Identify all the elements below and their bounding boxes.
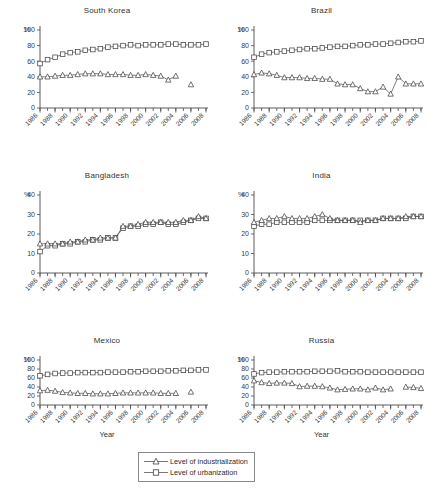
svg-text:2008: 2008 [404, 277, 420, 293]
svg-text:20: 20 [241, 392, 249, 399]
svg-text:1992: 1992 [69, 277, 85, 293]
svg-text:1996: 1996 [313, 112, 329, 128]
svg-text:2008: 2008 [189, 112, 205, 128]
svg-text:1992: 1992 [283, 409, 299, 425]
svg-text:2002: 2002 [359, 112, 375, 128]
svg-text:1990: 1990 [268, 277, 284, 293]
chart-svg: 0102030401986198819901992199419961998200… [0, 165, 214, 330]
panel-russia: Russia % 0204060801001986198819901992199… [214, 330, 429, 440]
svg-text:1992: 1992 [283, 112, 299, 128]
svg-text:40: 40 [27, 73, 35, 80]
svg-text:20: 20 [241, 230, 249, 237]
svg-text:80: 80 [241, 365, 249, 372]
svg-text:0: 0 [31, 401, 35, 408]
svg-text:2004: 2004 [374, 112, 390, 128]
plot-area: 0102030401986198819901992199419961998200… [0, 165, 214, 330]
svg-text:1994: 1994 [298, 112, 314, 128]
svg-text:100: 100 [23, 356, 35, 363]
svg-text:1994: 1994 [84, 277, 100, 293]
svg-text:1990: 1990 [54, 277, 70, 293]
svg-text:2000: 2000 [129, 409, 145, 425]
svg-text:1992: 1992 [283, 277, 299, 293]
svg-text:2004: 2004 [159, 112, 175, 128]
svg-text:2000: 2000 [129, 112, 145, 128]
svg-text:2006: 2006 [174, 277, 190, 293]
panel-brazil: Brazil % 0204060801001986198819901992199… [214, 0, 429, 165]
legend-label: Level of industrialization [169, 457, 248, 466]
svg-text:1992: 1992 [69, 112, 85, 128]
svg-text:0: 0 [31, 269, 35, 276]
svg-text:20: 20 [27, 230, 35, 237]
svg-text:1994: 1994 [298, 409, 314, 425]
svg-text:1996: 1996 [99, 112, 115, 128]
svg-text:2002: 2002 [144, 277, 160, 293]
panel-india: India % 01020304019861988199019921994199… [214, 165, 429, 330]
svg-text:1998: 1998 [328, 112, 344, 128]
svg-text:1990: 1990 [54, 409, 70, 425]
svg-text:1988: 1988 [38, 409, 54, 425]
svg-text:1998: 1998 [114, 112, 130, 128]
svg-text:1996: 1996 [99, 277, 115, 293]
svg-text:1990: 1990 [54, 112, 70, 128]
chart-svg: 0204060801001986198819901992199419961998… [0, 0, 214, 165]
plot-area: 0102030401986198819901992199419961998200… [214, 165, 429, 330]
svg-text:20: 20 [27, 392, 35, 399]
svg-text:1986: 1986 [237, 112, 253, 128]
svg-text:100: 100 [237, 26, 249, 33]
svg-text:2006: 2006 [174, 409, 190, 425]
svg-text:2000: 2000 [344, 277, 360, 293]
svg-text:2000: 2000 [344, 409, 360, 425]
svg-text:80: 80 [27, 42, 35, 49]
square-marker-icon [143, 467, 169, 478]
svg-text:40: 40 [27, 191, 35, 198]
plot-area: 0204060801001986198819901992199419961998… [214, 0, 429, 165]
svg-text:2006: 2006 [389, 409, 405, 425]
svg-text:1994: 1994 [84, 112, 100, 128]
svg-text:60: 60 [27, 374, 35, 381]
svg-text:2004: 2004 [159, 277, 175, 293]
svg-text:40: 40 [27, 383, 35, 390]
svg-text:1986: 1986 [23, 409, 39, 425]
svg-text:0: 0 [31, 104, 35, 111]
svg-text:1990: 1990 [268, 112, 284, 128]
svg-text:10: 10 [27, 250, 35, 257]
svg-text:0: 0 [245, 269, 249, 276]
svg-text:2002: 2002 [359, 409, 375, 425]
legend: Level of industrialization Level of urba… [138, 452, 255, 482]
svg-text:60: 60 [241, 58, 249, 65]
svg-text:2000: 2000 [129, 277, 145, 293]
plot-area: 0204060801001986198819901992199419961998… [0, 0, 214, 165]
legend-label: Level of urbanization [169, 468, 237, 477]
svg-text:30: 30 [241, 211, 249, 218]
svg-text:10: 10 [241, 250, 249, 257]
svg-text:1998: 1998 [328, 409, 344, 425]
svg-text:40: 40 [241, 383, 249, 390]
svg-text:100: 100 [23, 26, 35, 33]
x-axis-label: Year [214, 430, 429, 439]
plot-area: 0204060801001986198819901992199419961998… [214, 330, 429, 440]
panel-bangladesh: Bangladesh % 010203040198619881990199219… [0, 165, 214, 330]
triangle-marker-icon [143, 456, 169, 467]
chart-svg: 0102030401986198819901992199419961998200… [214, 165, 429, 330]
panel-south-korea: South Korea % 02040608010019861988199019… [0, 0, 214, 165]
svg-text:1986: 1986 [23, 277, 39, 293]
svg-text:2002: 2002 [144, 112, 160, 128]
svg-text:40: 40 [241, 191, 249, 198]
svg-text:80: 80 [241, 42, 249, 49]
svg-text:20: 20 [241, 89, 249, 96]
svg-text:1988: 1988 [253, 112, 269, 128]
svg-text:2008: 2008 [404, 112, 420, 128]
svg-text:1988: 1988 [253, 409, 269, 425]
svg-text:1994: 1994 [84, 409, 100, 425]
x-axis-label: Year [0, 430, 214, 439]
svg-text:2004: 2004 [159, 409, 175, 425]
svg-text:1998: 1998 [114, 409, 130, 425]
svg-text:1988: 1988 [38, 277, 54, 293]
chart-svg: 0204060801001986198819901992199419961998… [214, 330, 429, 440]
svg-text:2004: 2004 [374, 409, 390, 425]
svg-text:0: 0 [245, 401, 249, 408]
svg-text:1986: 1986 [23, 112, 39, 128]
panel-mexico: Mexico % 0204060801001986198819901992199… [0, 330, 214, 440]
svg-text:2004: 2004 [374, 277, 390, 293]
legend-item-urbanization: Level of urbanization [143, 467, 248, 478]
